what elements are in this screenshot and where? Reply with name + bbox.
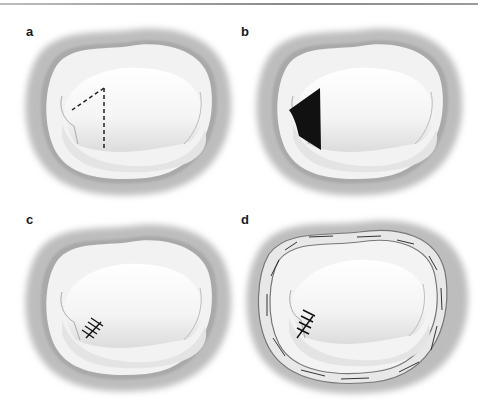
panel-a: a (0, 18, 239, 213)
panel-d: d (239, 212, 478, 407)
valve-illustration-b (239, 18, 478, 213)
panel-c: c (0, 212, 239, 407)
valve-illustration-d (239, 212, 478, 407)
valve-illustration-c (0, 212, 239, 407)
valve-illustration-a (0, 18, 239, 213)
panel-b: b (239, 18, 478, 213)
